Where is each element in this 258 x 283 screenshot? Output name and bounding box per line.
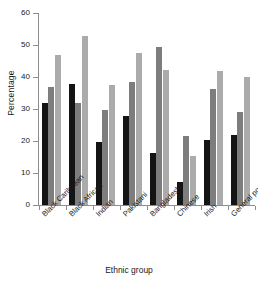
y-tick: 50 — [33, 45, 38, 46]
bar — [48, 87, 54, 205]
y-tick-label: 30 — [21, 103, 30, 114]
bar — [217, 71, 223, 205]
y-tick: 60 — [33, 13, 38, 14]
bar — [204, 140, 210, 205]
bar-group — [204, 13, 224, 205]
y-tick-label: 0 — [26, 199, 30, 210]
bar — [96, 142, 102, 205]
bar-group — [231, 13, 251, 205]
x-tick — [39, 206, 40, 210]
bar-group — [96, 13, 116, 205]
x-tick — [174, 206, 175, 210]
plot-area — [39, 13, 255, 205]
y-tick: 30 — [33, 109, 38, 110]
bar — [244, 77, 250, 205]
bar-group — [177, 13, 197, 205]
bar — [163, 70, 169, 205]
y-tick: 40 — [33, 77, 38, 78]
bar — [42, 103, 48, 205]
y-tick-label: 20 — [21, 135, 30, 146]
bar — [75, 103, 81, 205]
x-tick — [93, 206, 94, 210]
x-tick — [147, 206, 148, 210]
bar — [102, 110, 108, 205]
bar — [123, 116, 129, 205]
bar-group — [150, 13, 170, 205]
bar — [156, 47, 162, 205]
y-tick-label: 60 — [21, 7, 30, 18]
y-tick: 10 — [33, 173, 38, 174]
bar — [231, 135, 237, 205]
y-tick-label: 50 — [21, 39, 30, 50]
bar-group — [42, 13, 62, 205]
x-tick — [120, 206, 121, 210]
bar — [150, 153, 156, 205]
x-tick — [66, 206, 67, 210]
y-axis-title: Percentage — [6, 45, 16, 141]
bar — [237, 112, 243, 205]
bar — [55, 55, 61, 205]
bar — [183, 136, 189, 205]
bar — [210, 89, 216, 205]
x-tick — [201, 206, 202, 210]
y-tick: 20 — [33, 141, 38, 142]
bar — [136, 53, 142, 205]
bar-group — [123, 13, 143, 205]
bar-chart: 0102030405060 Percentage Black Caribbean… — [0, 0, 258, 283]
bar — [129, 82, 135, 205]
y-tick-label: 10 — [21, 167, 30, 178]
x-tick — [228, 206, 229, 210]
bar — [109, 85, 115, 205]
y-tick-label: 40 — [21, 71, 30, 82]
x-axis-title: Ethnic group — [0, 265, 258, 275]
x-tick — [255, 206, 256, 210]
